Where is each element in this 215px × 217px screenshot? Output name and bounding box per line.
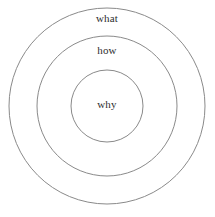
concentric-circles-svg: what how why [0, 0, 215, 217]
inner-circle-label: why [97, 98, 117, 110]
outer-circle-label: what [96, 12, 118, 24]
middle-circle-label: how [97, 44, 117, 56]
golden-circle-diagram: what how why [0, 0, 215, 217]
